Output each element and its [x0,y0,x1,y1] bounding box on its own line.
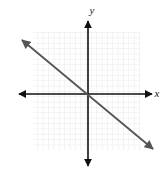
graph-figure: x y [0,0,168,171]
coordinate-plane-svg: x y [0,0,168,171]
y-axis-label: y [89,4,95,16]
x-axis-label: x [154,87,160,99]
grid-area [33,32,140,150]
